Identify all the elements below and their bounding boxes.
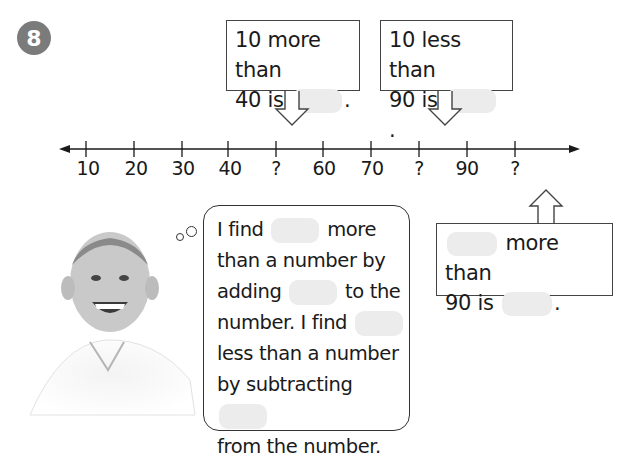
down-arrow-icon xyxy=(429,91,461,125)
tick-label: 20 xyxy=(124,157,147,179)
tick-label-unknown: ? xyxy=(510,157,520,179)
thought-text: adding xyxy=(217,280,281,303)
tick-label-unknown: ? xyxy=(271,157,281,179)
tick-label: 60 xyxy=(312,157,335,179)
thought-text: by subtracting xyxy=(217,373,353,396)
thought-text: I find xyxy=(217,218,264,241)
tick-label: 10 xyxy=(76,157,99,179)
thought-text: to the xyxy=(345,280,400,303)
right-arrowhead-icon xyxy=(569,145,580,153)
thought-text: more xyxy=(327,218,376,241)
up-arrow-icon xyxy=(530,190,562,223)
thought-dot-large xyxy=(186,226,197,237)
tick-label: 30 xyxy=(171,157,194,179)
thought-text: number. I find xyxy=(217,311,347,334)
thought-text: than a number by xyxy=(217,249,385,272)
left-arrowhead-icon xyxy=(59,145,70,153)
answer-blank[interactable] xyxy=(289,280,337,305)
thought-bubble: I find more than a number by adding to t… xyxy=(203,205,410,431)
thought-text: less than a number xyxy=(217,342,399,365)
boy-photo xyxy=(20,220,200,420)
tick-label: 40 xyxy=(218,157,241,179)
thought-text: from the number. xyxy=(217,435,381,457)
thought-dot-small xyxy=(176,233,184,241)
tick-label: 90 xyxy=(455,157,478,179)
tick-label-unknown: ? xyxy=(414,157,424,179)
down-arrow-icon xyxy=(276,91,308,125)
answer-blank[interactable] xyxy=(355,311,403,336)
answer-blank[interactable] xyxy=(271,218,319,243)
answer-blank[interactable] xyxy=(219,404,267,429)
tick-label: 70 xyxy=(360,157,383,179)
